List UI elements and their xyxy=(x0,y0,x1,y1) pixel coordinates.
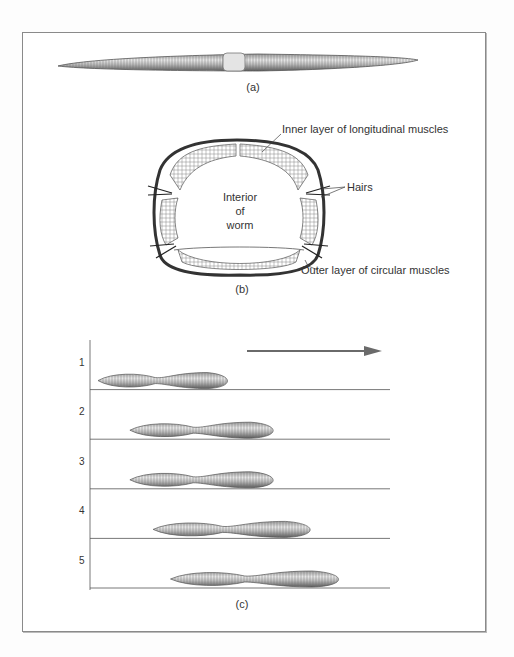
clitellum-a xyxy=(223,53,245,71)
label-outer-layer: Outer layer of circular muscles xyxy=(301,264,450,276)
step-label-3: 3 xyxy=(79,456,85,467)
interior-line-3: worm xyxy=(223,218,257,232)
label-hairs: Hairs xyxy=(347,181,373,193)
figure-drawing xyxy=(0,0,514,657)
direction-arrow xyxy=(247,346,382,356)
worm-step-3 xyxy=(130,472,273,488)
caption-c: (c) xyxy=(236,598,249,610)
sequence-chart xyxy=(90,340,390,590)
step-label-2: 2 xyxy=(79,406,85,417)
step-label-1: 1 xyxy=(79,357,85,368)
step-label-4: 4 xyxy=(79,505,85,516)
interior-line-2: of xyxy=(223,204,257,218)
interior-line-1: Interior xyxy=(223,190,257,204)
worm-a xyxy=(58,53,418,71)
caption-b: (b) xyxy=(235,283,248,295)
worm-step-5 xyxy=(171,571,339,587)
worm-step-4 xyxy=(153,521,310,537)
worm-step-1 xyxy=(98,373,227,389)
interior-label: Interior of worm xyxy=(223,190,257,232)
step-label-5: 5 xyxy=(79,555,85,566)
label-inner-layer: Inner layer of longitudinal muscles xyxy=(282,123,448,135)
caption-a: (a) xyxy=(246,81,259,93)
worm-step-2 xyxy=(130,422,273,438)
